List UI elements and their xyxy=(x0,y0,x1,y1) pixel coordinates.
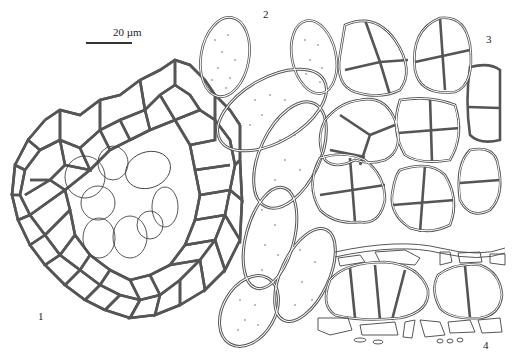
panel-4-section xyxy=(318,244,505,344)
panel-3-cells xyxy=(313,18,501,232)
panel-2-spores xyxy=(194,13,347,356)
panel-1-network xyxy=(12,60,242,318)
figure-drawing xyxy=(0,0,516,360)
